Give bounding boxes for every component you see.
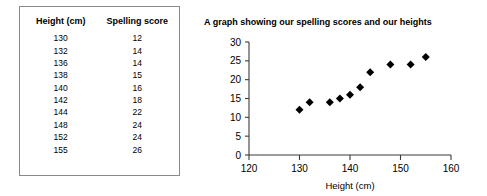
cell-spelling-score: 12 bbox=[95, 32, 179, 44]
data-point bbox=[356, 83, 364, 91]
y-tick-label: 10 bbox=[230, 112, 242, 123]
table-row: 14016 bbox=[20, 82, 179, 94]
y-tick-label: 25 bbox=[230, 55, 242, 66]
y-tick-label: 30 bbox=[230, 37, 242, 48]
height-spelling-table: Height (cm) Spelling score 1301213214136… bbox=[20, 16, 179, 156]
data-point bbox=[336, 95, 344, 103]
cell-height: 152 bbox=[20, 131, 95, 143]
cell-spelling-score: 15 bbox=[95, 69, 179, 81]
cell-spelling-score: 16 bbox=[95, 82, 179, 94]
data-table-panel: Height (cm) Spelling score 1301213214136… bbox=[19, 6, 180, 176]
y-tick-label: 15 bbox=[230, 93, 242, 104]
y-axis-ticks: 051015202530 bbox=[230, 37, 249, 161]
x-tick-label: 150 bbox=[392, 163, 409, 174]
cell-height: 142 bbox=[20, 94, 95, 106]
cell-height: 132 bbox=[20, 44, 95, 56]
chart-panel: A graph showing our spelling scores and … bbox=[196, 0, 487, 196]
data-point bbox=[422, 53, 430, 61]
table-row: 15526 bbox=[20, 143, 179, 155]
cell-height: 138 bbox=[20, 69, 95, 81]
table-row: 14422 bbox=[20, 106, 179, 118]
x-tick-label: 120 bbox=[241, 163, 258, 174]
cell-height: 144 bbox=[20, 106, 95, 118]
cell-height: 155 bbox=[20, 143, 95, 155]
table-row: 13815 bbox=[20, 69, 179, 81]
cell-spelling-score: 22 bbox=[95, 106, 179, 118]
table-header-row: Height (cm) Spelling score bbox=[20, 16, 179, 32]
table-body: 1301213214136141381514016142181442214824… bbox=[20, 32, 179, 156]
x-axis-title: Height (cm) bbox=[325, 180, 374, 191]
scatter-plot: 051015202530 120130140150160 Height (cm) bbox=[196, 30, 487, 196]
data-point bbox=[346, 91, 354, 99]
x-tick-label: 130 bbox=[291, 163, 308, 174]
data-point bbox=[296, 106, 304, 114]
cell-spelling-score: 26 bbox=[95, 143, 179, 155]
table-row: 15224 bbox=[20, 131, 179, 143]
cell-height: 140 bbox=[20, 82, 95, 94]
data-point bbox=[326, 98, 334, 106]
cell-spelling-score: 24 bbox=[95, 131, 179, 143]
cell-height: 136 bbox=[20, 57, 95, 69]
y-tick-label: 0 bbox=[235, 150, 241, 161]
column-header-spelling-score: Spelling score bbox=[95, 16, 179, 32]
chart-title: A graph showing our spelling scores and … bbox=[204, 17, 432, 27]
x-axis-ticks: 120130140150160 bbox=[241, 155, 460, 174]
data-points bbox=[296, 53, 430, 114]
cell-spelling-score: 18 bbox=[95, 94, 179, 106]
data-point bbox=[306, 98, 314, 106]
cell-height: 148 bbox=[20, 119, 95, 131]
data-point bbox=[407, 61, 415, 69]
data-point bbox=[366, 68, 374, 76]
cell-spelling-score: 24 bbox=[95, 119, 179, 131]
y-tick-label: 5 bbox=[235, 131, 241, 142]
data-point bbox=[386, 61, 394, 69]
cell-height: 130 bbox=[20, 32, 95, 44]
column-header-height: Height (cm) bbox=[20, 16, 95, 32]
table-row: 13614 bbox=[20, 57, 179, 69]
table-row: 14824 bbox=[20, 119, 179, 131]
table-row: 13214 bbox=[20, 44, 179, 56]
x-tick-label: 140 bbox=[342, 163, 359, 174]
y-tick-label: 20 bbox=[230, 74, 242, 85]
table-header: Height (cm) Spelling score bbox=[20, 16, 179, 32]
table-row: 14218 bbox=[20, 94, 179, 106]
x-tick-label: 160 bbox=[443, 163, 460, 174]
table-row: 13012 bbox=[20, 32, 179, 44]
cell-spelling-score: 14 bbox=[95, 57, 179, 69]
cell-spelling-score: 14 bbox=[95, 44, 179, 56]
